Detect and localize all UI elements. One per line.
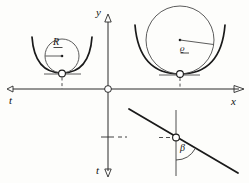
figure-canvas: y x t t R ϱ β [0,0,249,183]
t-axis-left-label: t [9,95,12,106]
radius-rho-label: ϱ [180,44,185,53]
y-axis-label: y [96,7,101,18]
beta-point-marker [173,134,180,141]
inclined-line [129,109,238,173]
left-vertex-marker [59,70,66,77]
right-vertex-marker [177,71,184,78]
y-axis-arrowhead [105,14,111,22]
left-parabola-group [32,37,92,89]
axis-group [7,14,244,177]
t-axis-down-label: t [96,165,99,176]
beta-angle-arc [176,149,195,161]
x-axis-label: x [231,96,236,107]
diagram-svg [0,0,249,183]
radius-R-label: R [53,37,59,47]
origin-marker [105,86,112,93]
beta-angle-label: β [180,143,185,153]
right-radius-line [180,40,214,45]
t-axis-left-arrowhead [7,86,13,92]
